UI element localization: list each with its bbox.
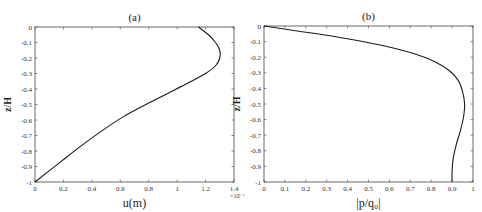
y-tick-label: -0.7	[21, 132, 33, 140]
y-tick-label: -0.8	[21, 148, 33, 156]
y-tick-label: -0.9	[250, 163, 262, 171]
axes-box	[264, 26, 473, 182]
x-axis-label: u(m)	[123, 196, 146, 210]
x-multiplier: ×10⁻⁷	[230, 193, 244, 199]
x-tick-label: 0	[33, 185, 37, 193]
x-tick-label: 0.3	[322, 185, 331, 193]
x-tick-label: 0.4	[343, 185, 352, 193]
series-line	[264, 26, 465, 182]
y-tick-label: -0.2	[250, 54, 262, 62]
x-tick-label: 1	[175, 185, 179, 193]
y-tick-label: -0.6	[21, 117, 33, 125]
x-tick-label: 1.2	[201, 185, 210, 193]
y-axis-label: z/H	[2, 97, 13, 112]
y-tick-label: -0.8	[250, 147, 262, 155]
y-tick-label: -1	[26, 179, 32, 187]
x-tick-label: 1.4	[230, 185, 239, 193]
y-tick-label: -0.4	[250, 85, 262, 93]
panel-a: 00.20.40.60.811.21.40-0.1-0.2-0.3-0.4-0.…	[2, 11, 244, 210]
series-line	[35, 27, 220, 182]
y-tick-label: 0	[258, 23, 262, 31]
y-tick-label: 0	[29, 24, 33, 32]
y-tick-label: -0.6	[250, 116, 262, 124]
x-tick-label: 0.8	[427, 185, 436, 193]
chart-title: (a)	[128, 11, 141, 24]
y-tick-label: -0.4	[21, 86, 33, 94]
y-tick-label: -0.5	[250, 101, 262, 109]
figure: 00.20.40.60.811.21.40-0.1-0.2-0.3-0.4-0.…	[0, 0, 482, 212]
x-tick-label: 0.6	[385, 185, 394, 193]
x-tick-label: 0.2	[59, 185, 68, 193]
x-tick-label: 0.6	[116, 185, 125, 193]
y-tick-label: -0.3	[250, 69, 262, 77]
y-axis-label: z/H	[231, 96, 242, 111]
y-tick-label: -0.1	[21, 39, 33, 47]
x-tick-label: 0.8	[144, 185, 153, 193]
x-tick-label: 0.7	[406, 185, 415, 193]
y-tick-label: -1	[255, 179, 261, 187]
y-tick-label: -0.9	[21, 163, 33, 171]
x-axis-label: |p/q₀|	[356, 196, 380, 210]
y-tick-label: -0.7	[250, 132, 262, 140]
y-tick-label: -0.3	[21, 70, 33, 78]
x-tick-label: 1	[471, 185, 475, 193]
x-tick-label: 0.5	[364, 185, 373, 193]
y-tick-label: -0.2	[21, 55, 33, 63]
chart-title: (b)	[362, 10, 375, 23]
x-tick-label: 0.4	[87, 185, 96, 193]
x-tick-label: 0.2	[301, 185, 310, 193]
panel-b: 00.10.20.30.40.50.60.70.80.910-0.1-0.2-0…	[231, 10, 475, 210]
x-tick-label: 0.9	[448, 185, 457, 193]
y-tick-label: -0.5	[21, 101, 33, 109]
x-tick-label: 0.1	[281, 185, 290, 193]
y-tick-label: -0.1	[250, 38, 262, 46]
x-tick-label: 0	[262, 185, 266, 193]
